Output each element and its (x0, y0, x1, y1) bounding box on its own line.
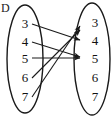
codomain-element-7: 7 (92, 89, 99, 104)
domain-element-5: 5 (22, 51, 29, 66)
arrow-7-to-3 (32, 26, 80, 97)
diagram-canvas: 3 4 5 6 7 3 4 5 6 7 (0, 0, 112, 117)
codomain-element-4: 4 (92, 33, 99, 48)
domain-element-6: 6 (22, 70, 29, 85)
codomain-element-3: 3 (92, 15, 99, 30)
domain-element-7: 7 (22, 89, 29, 104)
codomain-element-5: 5 (92, 51, 99, 66)
domain-element-4: 4 (22, 34, 29, 49)
mapping-diagram: D 3 4 5 6 7 3 4 5 6 7 (0, 0, 112, 117)
codomain-element-6: 6 (92, 70, 99, 85)
domain-element-3: 3 (22, 16, 29, 31)
